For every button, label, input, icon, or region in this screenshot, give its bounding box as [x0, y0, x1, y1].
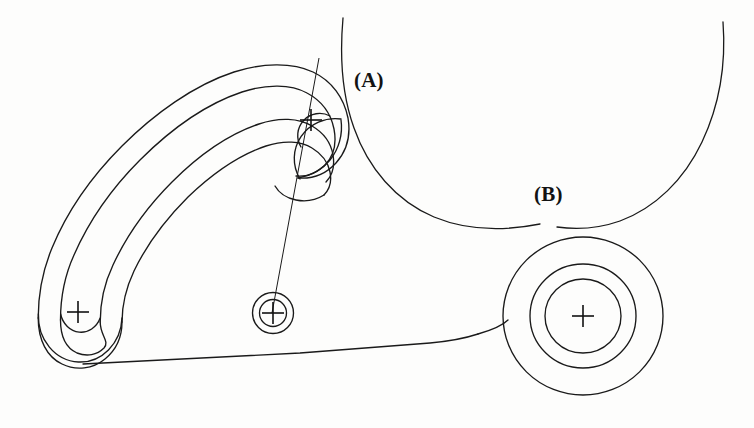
annotation-label-b: (B): [534, 182, 563, 207]
construction-centerline: [272, 58, 319, 313]
large-arc-left-branch: [342, 18, 540, 229]
slot-left-inner-cap: [61, 320, 106, 355]
center-marks-group: [67, 109, 594, 327]
slot-right-inner-cap: [275, 186, 324, 201]
slot-inner-wall: [122, 142, 331, 322]
slot-right-cap-inner: [298, 113, 330, 147]
large-arc-right-branch: [557, 22, 724, 228]
arm-inner-profile: [61, 86, 335, 320]
drawing-svg: [0, 0, 754, 428]
construction-line-group: [272, 58, 319, 313]
slot-left-cap-inner: [61, 314, 101, 332]
large-arc-group: [342, 18, 724, 229]
slot-right-outer-cap: [298, 120, 342, 178]
slot-left-outer-cap: [38, 318, 122, 368]
annotation-label-a: (A): [354, 68, 384, 93]
slot-outer-wall: [100, 119, 333, 322]
technical-drawing-canvas: (A) (B): [0, 0, 754, 428]
arm-bottom-edge: [83, 334, 478, 364]
